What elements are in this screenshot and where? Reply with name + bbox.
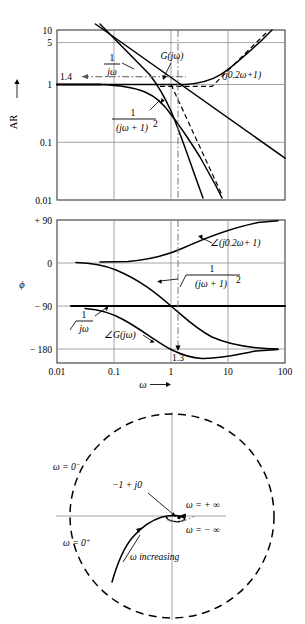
label-pole-exponent: 2 <box>153 118 158 129</box>
phase-y-tick-minus90: − 90 <box>35 301 53 312</box>
label-inv-jw-denominator: jω <box>105 66 117 77</box>
marker-1-4-label: 1.4 <box>60 71 72 82</box>
label-phase-pole-arrow-icon <box>157 279 162 283</box>
label-j02w-plus-1: (j0.2ω+1) <box>222 69 261 81</box>
label-pole-arrow-icon <box>161 98 165 103</box>
label-omega-zero-plus: ω = 0+ <box>63 537 91 548</box>
label-phase-g-jw: ∠G(jω) <box>104 329 155 343</box>
nyquist-locus-solid <box>112 515 185 582</box>
nyquist-labels: ω = 0− ω = 0+ −1 + j0 ω = + ∞ ω = − ∞ ω … <box>53 461 220 562</box>
label-phase-zero-arrow-icon <box>198 235 203 240</box>
curve-g-jw <box>100 24 203 198</box>
y-tick-0-01: 0.01 <box>35 195 52 206</box>
label-phase-inv-jw-denominator: jω <box>77 323 89 334</box>
label-phase-g-jw-text: ∠G(jω) <box>104 329 136 341</box>
label-omega-increasing: ω increasing <box>130 551 180 562</box>
x-tick-0-1: 0.1 <box>108 366 120 377</box>
label-g-jw-text: G(jω) <box>161 50 184 62</box>
phase-x-axis-label: ω <box>139 379 171 388</box>
phase-y-tick-0: 0 <box>47 258 52 269</box>
label-phase-zero: ∠(j0.2ω+ 1) <box>198 235 261 249</box>
phase-omega-1-3-marker: 1.3 <box>172 220 184 363</box>
label-zero-text: (j0.2ω+1) <box>222 69 261 81</box>
label-pole-numerator: 1 <box>131 107 136 118</box>
label-one-over-jw-plus-1-squared: 1 (jω + 1) 2 <box>112 98 165 134</box>
label-omega-plus-infinity: ω = + ∞ <box>186 499 220 510</box>
phase-y-axis-title: ϕ <box>19 279 25 290</box>
label-phase-pole-numerator: 1 <box>210 263 215 274</box>
phase-y-tick-minus180: − 180 <box>30 344 52 355</box>
y-tick-0-1: 0.1 <box>40 137 52 148</box>
y-tick-5: 5 <box>47 37 52 48</box>
phase-marker-1-3-label: 1.3 <box>172 352 184 363</box>
phase-y-ticks: + 90 0 − 90 − 180 <box>30 215 52 355</box>
y-tick-1: 1 <box>47 79 52 90</box>
marker-arrow-icon <box>82 74 88 79</box>
x-tick-100: 100 <box>278 366 293 377</box>
nyquist-plot: ω = 0− ω = 0+ −1 + j0 ω = + ∞ ω = − ∞ ω … <box>0 398 305 624</box>
x-tick-10: 10 <box>223 366 233 377</box>
y-tick-10: 10 <box>42 25 52 36</box>
y-axis-title: AR <box>8 115 19 130</box>
critical-point-marker <box>177 516 181 520</box>
label-one-over-jw: 1 jω <box>104 52 134 77</box>
label-omega-zero-minus: ω = 0− <box>53 461 81 472</box>
x-axis-arrow-icon <box>166 382 171 387</box>
magnitude-y-axis-label: AR <box>8 79 20 129</box>
label-omega-minus-infinity: ω = − ∞ <box>186 524 220 535</box>
phase-marker-arrow-icon <box>175 346 180 351</box>
nyquist-axes <box>56 412 226 620</box>
critical-point-leader <box>148 493 174 515</box>
label-phase-zero-text: ∠(j0.2ω+ 1) <box>210 237 261 249</box>
label-g-jw-arrow-icon <box>162 75 167 80</box>
x-tick-0-01: 0.01 <box>49 366 66 377</box>
phase-x-ticks: 0.01 0.1 1 10 100 <box>49 366 293 377</box>
label-inv-jw-numerator: 1 <box>110 52 115 63</box>
phase-bode-plot: + 90 0 − 90 − 180 ϕ 1.3 ∠(j0.2ω+ 1) 1 <box>0 208 305 388</box>
x-axis-title: ω <box>139 379 146 388</box>
figure-container: 10 5 1 0.1 0.01 AR 1.4 <box>0 0 305 624</box>
x-tick-1: 1 <box>169 366 174 377</box>
magnitude-bode-plot: 10 5 1 0.1 0.01 AR 1.4 <box>0 10 305 215</box>
label-phase-inv-jw: 1 jω <box>70 306 108 334</box>
phase-y-tick-plus90: + 90 <box>35 215 53 226</box>
y-axis-arrow-icon <box>14 79 19 84</box>
label-phase-pole-exponent: 2 <box>236 274 241 285</box>
label-pole-denominator: (jω + 1) <box>116 122 148 134</box>
magnitude-y-ticks: 10 5 1 0.1 0.01 <box>35 25 52 206</box>
label-phase-inv-jw-numerator: 1 <box>82 309 87 320</box>
label-phase-pole-denominator: (jω + 1) <box>195 278 227 290</box>
label-critical-point: −1 + j0 <box>112 479 142 490</box>
magnitude-1-4-marker: 1.4 <box>60 71 186 82</box>
label-g-jw: G(jω) <box>161 50 184 80</box>
